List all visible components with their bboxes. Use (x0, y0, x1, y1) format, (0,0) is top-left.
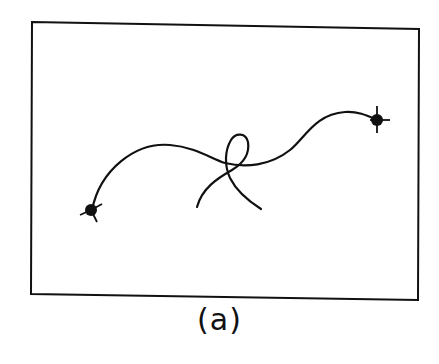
right-endpoint-marker (370, 106, 390, 133)
figure-caption: (a) (0, 302, 439, 337)
loop-curve (197, 135, 261, 209)
main-curve (92, 112, 377, 210)
left-endpoint-marker (80, 204, 102, 222)
